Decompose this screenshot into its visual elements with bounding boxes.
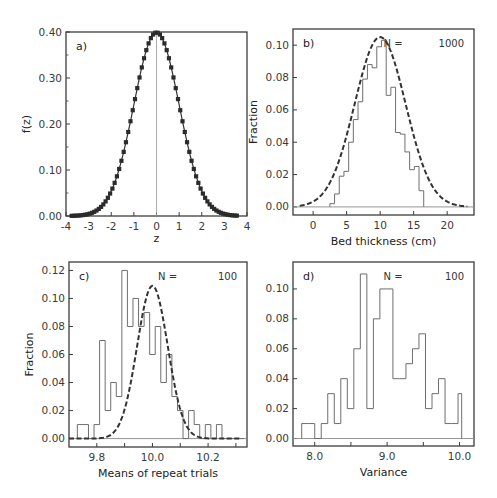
sample-size-value: 100 xyxy=(218,271,237,282)
data-marker xyxy=(169,65,173,69)
y-tick-label: 0.10 xyxy=(266,39,289,51)
x-tick-label: 15 xyxy=(407,219,420,231)
data-marker xyxy=(180,119,184,123)
x-axis-title: Variance xyxy=(360,466,408,479)
panel-label: a) xyxy=(76,40,87,53)
x-tick-label: 2 xyxy=(198,220,205,232)
y-tick-label: 0.00 xyxy=(39,210,62,222)
x-tick-label: 3 xyxy=(221,220,228,232)
data-marker xyxy=(131,108,135,112)
normal-fit-curve xyxy=(300,37,468,206)
x-axis-title: Means of repeat trials xyxy=(98,467,218,480)
data-marker xyxy=(187,150,191,154)
y-tick-label: 0.06 xyxy=(42,348,66,360)
panel-b-bed-thickness-histogram: 0.000.020.040.060.080.1005101520Bed thic… xyxy=(247,29,474,248)
data-marker xyxy=(185,140,189,144)
data-marker xyxy=(149,36,153,40)
histogram-steps xyxy=(302,274,462,439)
data-marker xyxy=(165,48,169,52)
data-marker xyxy=(135,86,139,90)
sample-size-label: N = xyxy=(384,271,403,282)
data-marker xyxy=(201,191,205,195)
x-tick-label: 20 xyxy=(440,219,453,231)
panel-d-variance-histogram: 0.000.020.040.060.080.108.09.010.0Varian… xyxy=(266,262,474,479)
y-tick-label: 0.06 xyxy=(266,342,290,354)
histogram-steps xyxy=(77,270,244,438)
data-marker xyxy=(122,150,126,154)
data-marker xyxy=(235,214,239,218)
data-marker xyxy=(144,48,148,52)
y-tick-label: 0.00 xyxy=(42,432,65,444)
data-marker xyxy=(158,32,162,36)
sample-size-value: 1000 xyxy=(439,38,464,49)
y-tick-label: 0.04 xyxy=(266,372,290,384)
y-tick-label: 0.30 xyxy=(39,72,62,84)
y-tick-label: 0.12 xyxy=(42,264,65,276)
data-marker xyxy=(171,75,175,79)
x-tick-label: -2 xyxy=(106,220,116,232)
data-marker xyxy=(124,140,128,144)
pdf-curve xyxy=(72,33,237,216)
y-axis-title: Fraction xyxy=(247,100,260,144)
plot-frame xyxy=(293,262,474,446)
data-marker xyxy=(126,130,130,134)
x-tick-label: 9.8 xyxy=(88,451,105,463)
data-marker xyxy=(194,174,198,178)
data-marker xyxy=(128,119,132,123)
y-tick-label: 0.02 xyxy=(266,168,289,180)
data-marker xyxy=(106,196,110,200)
sample-size-label: N = xyxy=(158,271,177,282)
panel-a-normal-pdf: 0.000.100.200.300.40-4-3-2-101234zf(z)a) xyxy=(20,26,251,246)
sample-size-value: 100 xyxy=(445,271,464,282)
x-tick-label: 10.0 xyxy=(141,451,164,463)
x-tick-label: 0 xyxy=(153,220,160,232)
x-axis-title: z xyxy=(154,232,160,245)
data-marker xyxy=(192,167,196,171)
x-tick-label: 10.0 xyxy=(448,450,471,462)
data-marker xyxy=(167,56,171,60)
data-marker xyxy=(133,97,137,101)
x-tick-label: 0 xyxy=(310,219,317,231)
x-axis-title: Bed thickness (cm) xyxy=(331,235,437,248)
data-marker xyxy=(160,36,164,40)
y-tick-label: 0.00 xyxy=(266,432,289,444)
data-marker xyxy=(189,159,193,163)
data-marker xyxy=(146,41,150,45)
x-tick-label: 9.0 xyxy=(379,450,396,462)
data-marker xyxy=(115,174,119,178)
y-tick-label: 0.06 xyxy=(266,103,290,115)
y-axis-title: f(z) xyxy=(20,115,33,133)
data-marker xyxy=(178,108,182,112)
x-tick-label: 1 xyxy=(176,220,183,232)
data-marker xyxy=(113,181,117,185)
y-axis-title: Fraction xyxy=(23,333,36,377)
y-tick-label: 0.02 xyxy=(266,402,289,414)
data-marker xyxy=(140,65,144,69)
data-marker xyxy=(119,159,123,163)
panel-label: c) xyxy=(79,270,89,283)
y-tick-label: 0.02 xyxy=(42,404,65,416)
data-marker xyxy=(162,41,166,45)
data-marker xyxy=(176,97,180,101)
x-tick-label: -1 xyxy=(129,220,139,232)
y-tick-label: 0.20 xyxy=(39,118,62,130)
data-marker xyxy=(203,196,207,200)
y-tick-label: 0.10 xyxy=(266,282,289,294)
data-marker xyxy=(117,167,121,171)
x-tick-label: 10 xyxy=(373,219,386,231)
panel-label: b) xyxy=(303,37,314,50)
y-tick-label: 0.04 xyxy=(266,136,290,148)
x-tick-label: 4 xyxy=(244,220,251,232)
y-tick-label: 0.00 xyxy=(266,200,289,212)
data-marker xyxy=(137,75,141,79)
x-tick-label: -3 xyxy=(83,220,93,232)
x-tick-label: 10.2 xyxy=(196,451,219,463)
data-marker xyxy=(174,86,178,90)
x-tick-label: -4 xyxy=(61,220,72,232)
data-marker xyxy=(110,186,114,190)
data-marker xyxy=(199,186,203,190)
data-marker xyxy=(103,199,107,203)
y-tick-label: 0.08 xyxy=(42,320,65,332)
data-marker xyxy=(142,56,146,60)
panel-label: d) xyxy=(303,270,314,283)
